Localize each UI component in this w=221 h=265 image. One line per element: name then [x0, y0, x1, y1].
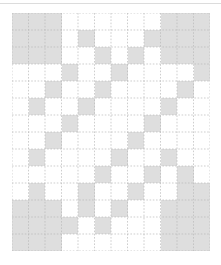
grid-cell [177, 47, 194, 64]
grid-cell [62, 183, 79, 200]
grid-cell [111, 30, 128, 47]
grid-cell [194, 132, 211, 149]
grid-cell [29, 81, 46, 98]
grid-cell [111, 13, 128, 30]
grid-cell [161, 200, 178, 217]
grid-cell [111, 200, 128, 217]
grid-cell [128, 183, 145, 200]
grid-cell [95, 200, 112, 217]
grid-cell [29, 200, 46, 217]
grid-cell [45, 149, 62, 166]
grid-cell [95, 64, 112, 81]
grid-cell [144, 132, 161, 149]
grid-cell [128, 30, 145, 47]
grid-cell [78, 98, 95, 115]
grid-cell [29, 64, 46, 81]
grid-cell [194, 234, 211, 251]
grid-cell [62, 64, 79, 81]
grid-cell [29, 166, 46, 183]
grid-cell [95, 115, 112, 132]
grid-cell [78, 64, 95, 81]
grid-cell [29, 132, 46, 149]
grid-cell [12, 47, 29, 64]
grid-cell [12, 166, 29, 183]
grid-cell [62, 217, 79, 234]
grid-cell [128, 166, 145, 183]
grid-cell [111, 115, 128, 132]
grid-cell [12, 81, 29, 98]
grid-cell [45, 64, 62, 81]
grid-cell [45, 200, 62, 217]
grid-cell [12, 183, 29, 200]
quilt-cell-layer [12, 13, 210, 251]
grid-cell [144, 13, 161, 30]
grid-cell [144, 200, 161, 217]
grid-cell [161, 132, 178, 149]
grid-cell [62, 47, 79, 64]
grid-cell [194, 149, 211, 166]
grid-cell [45, 132, 62, 149]
grid-cell [78, 30, 95, 47]
grid-cell [161, 149, 178, 166]
grid-cell [12, 217, 29, 234]
grid-cell [62, 234, 79, 251]
grid-cell [45, 234, 62, 251]
grid-cell [12, 30, 29, 47]
grid-cell [111, 47, 128, 64]
grid-cell [29, 30, 46, 47]
grid-cell [161, 64, 178, 81]
grid-cell [45, 81, 62, 98]
grid-cell [62, 81, 79, 98]
grid-cell [29, 13, 46, 30]
grid-cell [144, 81, 161, 98]
grid-cell [29, 217, 46, 234]
grid-cell [161, 13, 178, 30]
grid-cell [161, 98, 178, 115]
grid-cell [95, 149, 112, 166]
grid-cell [177, 81, 194, 98]
grid-cell [95, 30, 112, 47]
grid-cell [29, 115, 46, 132]
grid-cell [177, 200, 194, 217]
grid-cell [128, 217, 145, 234]
grid-cell [194, 47, 211, 64]
grid-cell [78, 234, 95, 251]
grid-cell [12, 13, 29, 30]
grid-cell [95, 98, 112, 115]
grid-cell [194, 115, 211, 132]
grid-cell [128, 200, 145, 217]
grid-cell [128, 13, 145, 30]
grid-cell [194, 81, 211, 98]
grid-cell [144, 64, 161, 81]
grid-cell [45, 98, 62, 115]
grid-cell [177, 13, 194, 30]
grid-cell [111, 81, 128, 98]
grid-cell [111, 132, 128, 149]
grid-cell [62, 13, 79, 30]
grid-cell [12, 115, 29, 132]
grid-cell [78, 217, 95, 234]
grid-cell [177, 149, 194, 166]
grid-cell [161, 47, 178, 64]
grid-cell [128, 47, 145, 64]
grid-cell [161, 234, 178, 251]
top-rule-divider [0, 3, 221, 4]
figure-canvas [0, 0, 221, 265]
grid-cell [12, 149, 29, 166]
grid-cell [144, 217, 161, 234]
grid-cell [144, 98, 161, 115]
grid-cell [78, 47, 95, 64]
grid-cell [45, 115, 62, 132]
grid-cell [78, 166, 95, 183]
grid-cell [78, 132, 95, 149]
grid-cell [95, 81, 112, 98]
grid-cell [194, 30, 211, 47]
grid-cell [45, 30, 62, 47]
grid-cell [111, 183, 128, 200]
grid-cell [95, 234, 112, 251]
grid-cell [45, 13, 62, 30]
grid-cell [177, 98, 194, 115]
grid-cell [177, 115, 194, 132]
grid-cell [111, 98, 128, 115]
grid-cell [29, 98, 46, 115]
